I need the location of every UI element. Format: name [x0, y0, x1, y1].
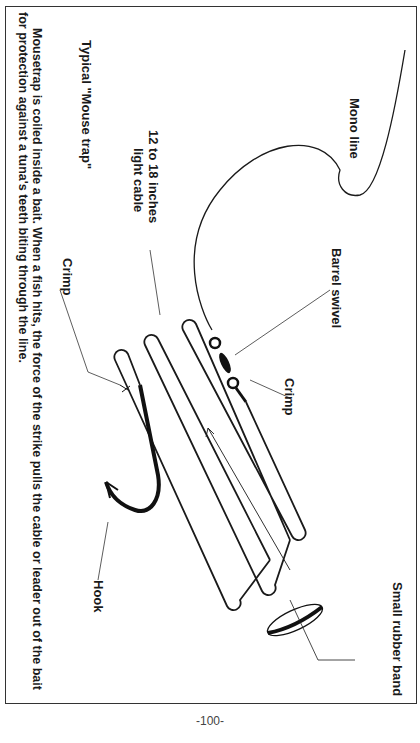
mono-line — [194, 50, 405, 330]
label-crimp-bottom: Crimp — [60, 258, 75, 296]
page-number: -100- — [0, 714, 420, 728]
caption-line-1: Mousetrap is coiled inside a bait. When … — [30, 28, 44, 690]
figure-title: Typical "Mouse trap" — [79, 40, 94, 169]
label-hook: Hook — [91, 580, 106, 613]
label-mono-line: Mono line — [347, 98, 362, 159]
label-crimp-top: Crimp — [282, 378, 297, 416]
label-cable: 12 to 18 inches — [146, 130, 161, 223]
rubber-band-icon — [264, 598, 327, 641]
hook-icon — [106, 385, 159, 511]
label-barrel-swivel: Barrel swivel — [329, 248, 344, 328]
label-cable-line2: light cable — [131, 148, 146, 212]
label-rubber-band: Small rubber band — [390, 582, 405, 696]
caption-line-2: for protection against a tuna's teeth bi… — [16, 12, 30, 363]
cable-coils — [114, 320, 305, 610]
